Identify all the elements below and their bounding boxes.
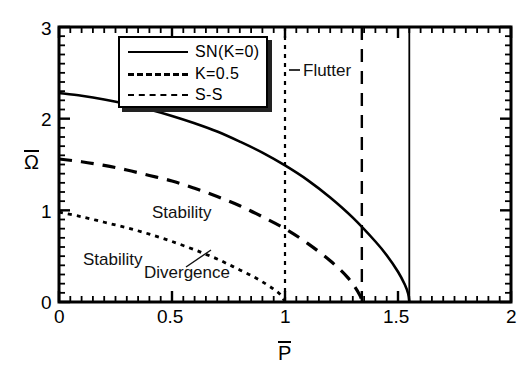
x-tick-label-0p5: 0.5 (157, 307, 183, 326)
legend-swatch-solid (128, 46, 188, 58)
legend-swatch-dashed (128, 68, 188, 80)
y-tick-label-0: 0 (41, 293, 52, 312)
y-tick-label-3: 3 (41, 19, 52, 38)
y-axis-title-text: Ω (24, 150, 39, 172)
x-tick-label-1p5: 1.5 (383, 307, 409, 326)
figure-stability-chart: 3 2 1 0 0 0.5 1 1.5 2 Ω P Flutter Stabil… (0, 0, 531, 376)
curve-sn-k-0- (59, 93, 409, 302)
legend-swatch-dotted (128, 89, 188, 101)
y-tick-label-1: 1 (41, 202, 52, 221)
x-axis-title-text: P (278, 341, 291, 363)
annotation-divergence: Divergence (144, 264, 230, 281)
data-curves (59, 93, 409, 302)
annotation-stability-lower: Stability (83, 251, 143, 268)
x-axis-title: P (278, 341, 291, 363)
legend: SN(K=0) K=0.5 S-S (118, 36, 268, 108)
x-tick-label-0: 0 (54, 307, 65, 326)
annotation-stability-upper: Stability (152, 204, 212, 221)
y-axis-title: Ω (24, 150, 39, 172)
x-tick-label-2: 2 (506, 307, 517, 326)
annotation-flutter: Flutter (303, 62, 351, 79)
x-tick-label-1: 1 (280, 307, 291, 326)
legend-entry-sn: SN(K=0) (120, 41, 266, 63)
legend-entry-k05: K=0.5 (120, 63, 266, 85)
legend-entry-ss: S-S (120, 84, 266, 106)
legend-label-k05: K=0.5 (195, 65, 239, 83)
legend-label-ss: S-S (195, 86, 223, 104)
legend-label-sn: SN(K=0) (195, 43, 260, 61)
y-tick-label-2: 2 (41, 110, 52, 129)
